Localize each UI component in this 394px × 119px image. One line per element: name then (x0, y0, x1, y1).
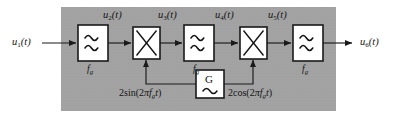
signal-label-u2: u2(t) (103, 10, 122, 22)
filter3-frequency-label: fg (302, 65, 308, 76)
block-diagram-figure: G u1(t) u2(t) u3(t) u4(t) u5(t) u6(t) fg… (0, 0, 394, 119)
cosine-carrier-label: 2cos(2πfgt) (228, 88, 272, 100)
signal-arg: (t) (112, 9, 122, 20)
filter1-frequency-label: fg (87, 65, 93, 76)
freq-sub: g (90, 68, 94, 76)
signal-label-output: u6(t) (360, 37, 379, 49)
signal-arg: (t) (21, 36, 31, 47)
multiplier-block-1 (133, 27, 160, 59)
carrier-suffix: ) (269, 87, 272, 98)
carrier-prefix: 2cos(2 (228, 87, 255, 98)
sine-carrier-label: 2sin(2πfgt) (119, 88, 161, 100)
filter-block-1 (78, 25, 108, 61)
signal-label-u5: u5(t) (268, 10, 287, 22)
signal-label-u4: u4(t) (215, 10, 234, 22)
multiplier-block-2 (240, 27, 267, 59)
wire-generator-to-mixer2 (224, 60, 253, 84)
signal-label-input: u1(t) (12, 37, 31, 49)
carrier-prefix: 2sin(2 (119, 87, 144, 98)
carrier-suffix: ) (158, 87, 161, 98)
wire-generator-to-mixer1 (146, 60, 196, 84)
oscillator-letter: G (205, 73, 213, 85)
signal-arg: (t) (369, 36, 379, 47)
filter-block-3 (293, 25, 323, 61)
signal-arg: (t) (277, 9, 287, 20)
diagram-vector-layer (0, 0, 394, 119)
freq-sub: g (196, 68, 200, 76)
signal-arg: (t) (224, 9, 234, 20)
signal-arg: (t) (167, 9, 177, 20)
signal-label-u3: u3(t) (158, 10, 177, 22)
filter-block-2 (184, 25, 214, 61)
filter2-frequency-label: fg (193, 65, 199, 76)
freq-sub: g (305, 68, 309, 76)
